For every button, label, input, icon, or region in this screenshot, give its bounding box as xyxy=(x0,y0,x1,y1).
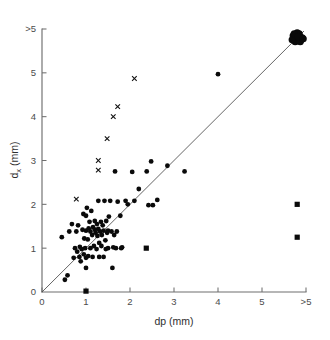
data-point-circle xyxy=(146,203,151,208)
data-point-circle xyxy=(150,203,155,208)
data-point-circle xyxy=(84,213,89,218)
data-point-square xyxy=(144,246,149,251)
data-point-square xyxy=(295,202,300,207)
identity-line xyxy=(42,31,304,292)
data-point-circle xyxy=(77,255,82,260)
y-tick-label: 1 xyxy=(31,243,36,254)
x-tick-label: >5 xyxy=(301,296,312,307)
plot-canvas: 012345>5012345>5 dp (mm) dx (mm) xyxy=(0,0,330,340)
data-point-circle xyxy=(114,229,119,234)
y-axis-title: dx (mm) xyxy=(8,142,23,179)
data-point-circle xyxy=(120,245,125,250)
data-point-circle xyxy=(99,233,104,238)
data-point-circle xyxy=(101,255,106,260)
data-point-cross xyxy=(96,168,101,173)
data-point-cross xyxy=(132,76,137,81)
data-point-cross xyxy=(74,197,79,202)
data-point-circle xyxy=(104,219,109,224)
y-tick-label: 0 xyxy=(31,286,36,297)
data-point-circle xyxy=(108,198,113,203)
data-point-circle xyxy=(86,254,91,259)
data-point-circle xyxy=(83,246,88,251)
data-point-circle xyxy=(87,219,92,224)
data-point-circle xyxy=(114,246,119,251)
data-point-circle xyxy=(70,222,75,227)
data-point-circle xyxy=(71,255,76,260)
data-point-circle xyxy=(95,233,100,238)
y-axis-title-unit: (mm) xyxy=(8,142,20,169)
data-point-circle xyxy=(125,202,130,207)
data-point-circle xyxy=(96,198,101,203)
data-point-circle xyxy=(149,159,154,164)
data-point-circle xyxy=(102,198,107,203)
data-point-cross xyxy=(111,114,116,119)
y-tick-label: >5 xyxy=(25,23,36,34)
data-point-circle xyxy=(85,237,90,242)
data-point-circle xyxy=(103,238,108,243)
x-tick-label: 3 xyxy=(171,296,176,307)
identity-line-group xyxy=(42,31,304,292)
data-point-circle xyxy=(84,205,89,210)
data-point-circle xyxy=(78,259,83,264)
y-tick-label: 4 xyxy=(31,111,36,122)
data-point-circle xyxy=(99,244,104,249)
data-point-circle xyxy=(94,247,99,252)
scatter-plot-figure: 012345>5012345>5 dp (mm) dx (mm) xyxy=(0,0,330,340)
data-point-circle xyxy=(110,265,115,270)
x-tick-label: 4 xyxy=(215,296,220,307)
y-tick-label: 2 xyxy=(31,199,36,210)
data-point-circle xyxy=(62,277,67,282)
data-point-circle xyxy=(67,229,72,234)
data-points-group xyxy=(59,29,306,294)
data-point-circle xyxy=(90,255,95,260)
x-tick-label: 1 xyxy=(83,296,88,307)
data-point-circle xyxy=(84,265,89,270)
y-tick-label: 3 xyxy=(31,155,36,166)
data-point-circle xyxy=(97,255,102,260)
data-point-circle xyxy=(132,198,137,203)
data-point-circle xyxy=(100,223,105,228)
data-point-square xyxy=(83,289,88,294)
data-point-cross xyxy=(96,158,101,163)
data-point-circle xyxy=(59,235,64,240)
x-tick-label: 2 xyxy=(127,296,132,307)
data-point-circle xyxy=(113,169,118,174)
data-point-cross xyxy=(115,104,120,109)
x-tick-label: 0 xyxy=(39,296,44,307)
data-point-circle xyxy=(216,72,221,77)
data-point-circle xyxy=(182,169,187,174)
data-point-circle xyxy=(118,213,123,218)
x-tick-label: 5 xyxy=(259,296,264,307)
data-point-circle xyxy=(76,223,81,228)
data-point-circle xyxy=(130,169,135,174)
data-point-circle xyxy=(75,249,80,254)
censored-cluster-blob xyxy=(289,29,307,45)
data-point-circle xyxy=(115,199,120,204)
data-point-circle xyxy=(155,198,160,203)
data-point-square xyxy=(295,235,300,240)
data-point-circle xyxy=(89,209,94,214)
data-point-circle xyxy=(144,169,149,174)
data-point-circle xyxy=(165,163,170,168)
y-tick-label: 5 xyxy=(31,67,36,78)
x-axis-title: dp (mm) xyxy=(154,315,193,327)
data-point-circle xyxy=(136,187,141,192)
data-point-circle xyxy=(65,273,70,278)
data-point-circle xyxy=(106,214,111,219)
data-point-cross xyxy=(105,136,110,141)
data-point-circle xyxy=(106,246,111,251)
data-point-circle xyxy=(74,229,79,234)
